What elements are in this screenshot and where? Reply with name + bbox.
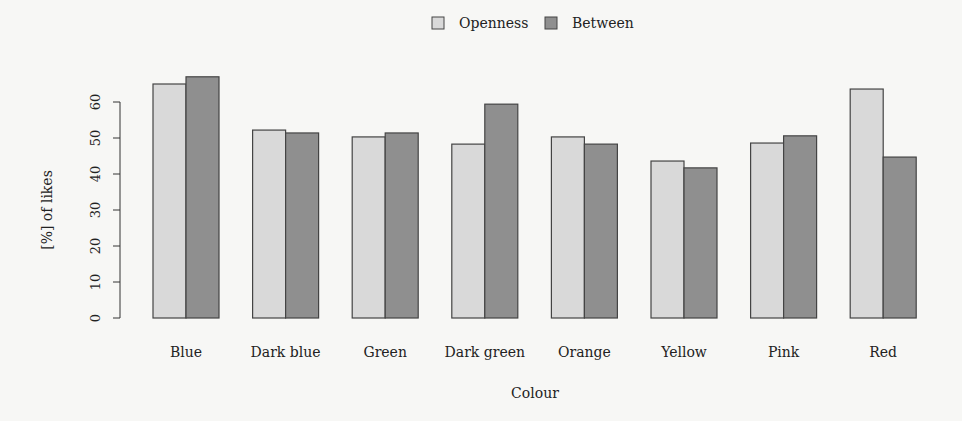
- bar-between-dark-green: [485, 104, 518, 318]
- y-tick-label: 40: [88, 166, 103, 183]
- x-tick-label: Dark blue: [251, 344, 321, 360]
- y-axis-title: [%] of likes: [39, 170, 55, 250]
- bar-openness-green: [352, 137, 385, 318]
- x-tick-label: Dark green: [445, 344, 525, 360]
- x-axis-labels: BlueDark blueGreenDark greenOrangeYellow…: [170, 344, 897, 360]
- bar-between-blue: [186, 77, 219, 318]
- bar-openness-blue: [153, 84, 186, 318]
- y-tick-label: 0: [88, 314, 103, 322]
- bar-between-red: [883, 157, 916, 318]
- bar-openness-dark-green: [452, 144, 485, 318]
- bar-openness-pink: [751, 143, 784, 318]
- x-tick-label: Red: [869, 344, 897, 360]
- bar-between-yellow: [684, 168, 717, 318]
- bar-openness-red: [850, 89, 883, 318]
- y-tick-label: 60: [88, 94, 103, 111]
- bar-between-pink: [784, 136, 817, 318]
- x-tick-label: Yellow: [660, 344, 707, 360]
- bar-chart: Openness Between 0102030405060 BlueDark …: [0, 0, 962, 421]
- y-axis: 0102030405060: [88, 94, 121, 322]
- y-tick-label: 30: [88, 202, 103, 219]
- x-tick-label: Blue: [170, 344, 202, 360]
- bar-openness-yellow: [651, 161, 684, 318]
- x-tick-label: Orange: [558, 344, 611, 360]
- y-tick-label: 50: [88, 130, 103, 147]
- legend-label-openness: Openness: [459, 15, 528, 31]
- bar-between-green: [385, 133, 418, 318]
- bar-between-dark-blue: [286, 133, 319, 318]
- x-tick-label: Green: [363, 344, 406, 360]
- bar-between-orange: [584, 144, 617, 318]
- legend-swatch-between: [545, 17, 557, 29]
- y-tick-label: 20: [88, 238, 103, 255]
- legend-swatch-openness: [432, 17, 444, 29]
- x-axis-title: Colour: [511, 385, 559, 401]
- legend: Openness Between: [432, 15, 634, 31]
- bar-openness-dark-blue: [253, 130, 286, 318]
- legend-label-between: Between: [572, 15, 634, 31]
- x-tick-label: Pink: [768, 344, 800, 360]
- bars: [153, 77, 916, 318]
- y-tick-label: 10: [88, 274, 103, 291]
- bar-openness-orange: [551, 137, 584, 318]
